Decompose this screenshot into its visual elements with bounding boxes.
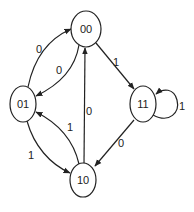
- state-label-00: 00: [80, 23, 92, 35]
- edge-label-11-11: 1: [179, 100, 185, 112]
- edge-label-00-01: 0: [56, 64, 62, 76]
- edge-label-10-00: 0: [86, 105, 92, 117]
- state-label-01: 01: [17, 98, 29, 110]
- edge-01-to-10: [27, 121, 70, 173]
- state-node-01: 01: [10, 86, 36, 122]
- edge-11-to-11-loop: [153, 90, 178, 118]
- state-node-00: 00: [71, 11, 101, 47]
- edge-01-to-00: [28, 29, 71, 87]
- edge-label-11-10: 0: [118, 137, 124, 149]
- state-label-11: 11: [137, 98, 148, 110]
- edge-10-to-00: [84, 48, 85, 163]
- edge-11-to-10: [95, 120, 134, 166]
- edge-10-to-01: [36, 112, 79, 164]
- state-label-10: 10: [77, 174, 89, 186]
- state-node-10: 10: [70, 163, 96, 197]
- edge-label-00-11: 1: [113, 56, 119, 68]
- edge-label-01-00: 0: [36, 43, 42, 55]
- edge-label-10-01: 1: [67, 121, 73, 133]
- state-diagram: 0 0 1 1 0 1 1 0 00 01 11 10: [0, 0, 194, 212]
- edge-label-01-10: 1: [28, 149, 34, 161]
- state-node-11: 11: [130, 86, 156, 122]
